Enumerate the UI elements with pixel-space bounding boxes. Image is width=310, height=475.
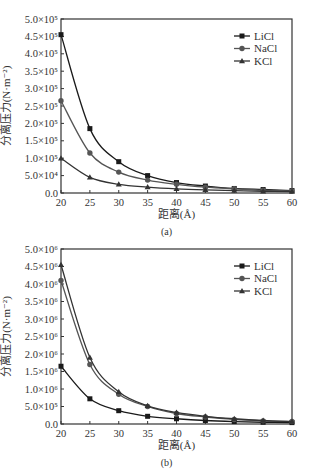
- legend-label: LiCl: [254, 30, 274, 42]
- legend-label: NaCl: [254, 42, 277, 54]
- chart-b: 0.05.0×10⁵1.0×10⁶1.5×10⁶2.0×10⁶2.5×10⁶3.…: [0, 237, 310, 475]
- legend-label: NaCl: [254, 272, 277, 284]
- y-tick-label: 3.5×10⁵: [25, 66, 59, 77]
- x-tick-label: 30: [114, 197, 125, 208]
- square-marker-icon: [59, 364, 64, 369]
- legend-circle-icon: [239, 46, 244, 51]
- legend-label: LiCl: [254, 260, 274, 272]
- y-tick-label: 1.5×10⁶: [25, 366, 59, 377]
- circle-marker-icon: [116, 169, 121, 174]
- triangle-marker-icon: [87, 355, 93, 360]
- y-tick-label: 5.0×10⁵: [25, 401, 59, 412]
- y-tick-label: 5.0×10⁵: [25, 14, 59, 25]
- square-marker-icon: [145, 414, 150, 419]
- square-marker-icon: [116, 408, 121, 413]
- legend: LiClNaClKCl: [234, 30, 277, 67]
- y-tick-label: 3.0×10⁶: [25, 314, 59, 325]
- x-axis-label: 距离(Å): [158, 438, 196, 452]
- x-tick-label: 40: [171, 197, 182, 208]
- y-tick-label: 1.0×10⁶: [25, 384, 59, 395]
- x-tick-label: 60: [287, 428, 298, 439]
- y-tick-label: 3.5×10⁶: [25, 296, 59, 307]
- x-tick-label: 40: [171, 428, 182, 439]
- y-tick-label: 2.5×10⁶: [25, 331, 59, 342]
- circle-marker-icon: [58, 98, 63, 103]
- square-marker-icon: [87, 396, 92, 401]
- y-tick-label: 1.0×10⁵: [25, 153, 59, 164]
- y-axis-label: 分离压力(N·m⁻²): [0, 296, 13, 377]
- x-tick-label: 55: [258, 197, 269, 208]
- y-tick-label: 4.5×10⁵: [25, 31, 59, 42]
- y-tick-label: 3.0×10⁵: [25, 83, 59, 94]
- x-tick-label: 30: [114, 428, 125, 439]
- legend: LiClNaClKCl: [234, 260, 277, 297]
- chart-a: 0.05.0×10⁴1.0×10⁵1.5×10⁵2.0×10⁵2.5×10⁵3.…: [0, 0, 310, 237]
- square-marker-icon: [145, 173, 150, 178]
- y-axis-label: 分离压力(N·m⁻²): [0, 65, 13, 146]
- circle-marker-icon: [87, 150, 92, 155]
- y-tick-label: 4.0×10⁵: [25, 48, 59, 59]
- x-tick-label: 20: [56, 428, 67, 439]
- x-tick-label: 50: [229, 197, 240, 208]
- x-tick-label: 20: [56, 197, 67, 208]
- figure-caption: (b): [161, 457, 173, 469]
- triangle-marker-icon: [58, 262, 64, 267]
- x-tick-label: 45: [200, 197, 211, 208]
- circle-marker-icon: [145, 177, 150, 182]
- square-marker-icon: [87, 126, 92, 131]
- y-tick-label: 2.5×10⁵: [25, 101, 59, 112]
- x-tick-label: 55: [258, 428, 269, 439]
- y-tick-label: 2.0×10⁵: [25, 118, 59, 129]
- x-tick-label: 35: [142, 197, 153, 208]
- legend-square-icon: [240, 264, 245, 269]
- x-tick-label: 60: [287, 197, 298, 208]
- y-tick-label: 1.5×10⁵: [25, 135, 59, 146]
- figure-caption: (a): [161, 226, 172, 237]
- square-marker-icon: [174, 416, 179, 421]
- legend-circle-icon: [239, 276, 244, 281]
- legend-square-icon: [240, 34, 245, 39]
- y-tick-label: 5.0×10⁶: [25, 244, 59, 255]
- series-kcl: [58, 155, 295, 194]
- legend-label: KCl: [254, 285, 272, 297]
- y-tick-label: 4.0×10⁶: [25, 279, 59, 290]
- x-tick-label: 35: [142, 428, 153, 439]
- x-tick-label: 50: [229, 428, 240, 439]
- series-nacl: [58, 278, 294, 424]
- x-tick-label: 25: [85, 197, 96, 208]
- y-tick-label: 5.0×10⁴: [25, 170, 59, 181]
- y-tick-label: 4.5×10⁶: [25, 261, 59, 272]
- x-tick-label: 45: [200, 428, 211, 439]
- square-marker-icon: [116, 159, 121, 164]
- y-tick-label: 2.0×10⁶: [25, 349, 59, 360]
- circle-marker-icon: [58, 278, 63, 283]
- x-tick-label: 25: [85, 428, 96, 439]
- square-marker-icon: [59, 32, 64, 37]
- x-axis-label: 距离(Å): [158, 207, 196, 221]
- legend-label: KCl: [254, 55, 272, 67]
